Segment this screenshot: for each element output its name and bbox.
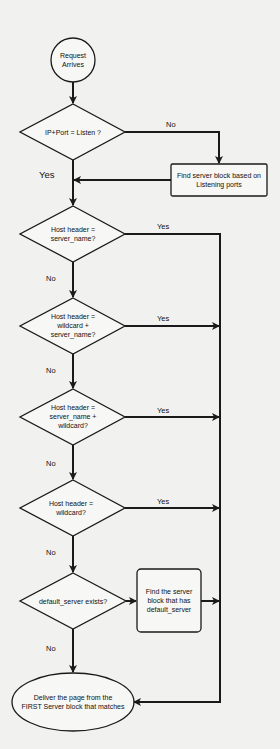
find-by-listen-box-label: Find server block based on Listening por… — [171, 166, 267, 194]
decision-wildcard-prefix-label: Host header = wildcard + server_name? — [38, 312, 108, 339]
edge-label-d5-no: No — [46, 548, 56, 557]
edge-label-d6-no: No — [46, 644, 56, 653]
decision-wildcard-suffix-label: Host header = server_name + wildcard? — [38, 403, 108, 430]
edge-label-d4-no: No — [46, 459, 56, 468]
edge-label-d1-yes: Yes — [39, 170, 55, 179]
edge-label-d3-no: No — [46, 366, 56, 375]
decision-default-server-label: default_server exists? — [28, 596, 118, 606]
flowchart: Request Arrives IP+Port = Listen ? Find … — [0, 0, 280, 749]
edge-label-d3-yes: Yes — [157, 314, 169, 323]
decision-server-name-label: Host header = server_name? — [38, 225, 108, 243]
edge-label-d4-yes: Yes — [157, 406, 169, 415]
edge-label-d5-yes: Yes — [157, 497, 169, 506]
arrow-d1-no — [125, 132, 219, 163]
decision-ip-port-label: IP+Port = Listen ? — [28, 127, 118, 137]
find-default-box-label: Find the server block that has default_s… — [137, 587, 201, 614]
end-node-label: Deliver the page from the FIRST Server b… — [14, 693, 132, 711]
flowchart-graphics — [0, 0, 280, 749]
edge-label-d2-no: No — [46, 274, 56, 283]
edge-label-d1-no: No — [166, 120, 176, 129]
start-node-label: Request Arrives — [51, 49, 95, 71]
decision-wildcard-label: Host header = wildcard? — [36, 499, 106, 517]
edge-label-d2-yes: Yes — [157, 222, 169, 231]
